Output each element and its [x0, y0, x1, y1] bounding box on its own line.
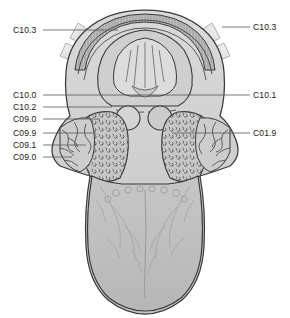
- oropharynx-tongue-illustration: [0, 0, 290, 318]
- label-right-c01-9: C01.9: [253, 129, 276, 138]
- label-left-c09-1: C09.1: [13, 141, 36, 150]
- label-right-c10-3: C10.3: [253, 23, 276, 32]
- anatomical-diagram: [0, 0, 290, 318]
- label-right-c10-1: C10.1: [253, 91, 276, 100]
- label-left-c09-9: C09.9: [13, 129, 36, 138]
- label-left-c09-0-upper: C09.0: [13, 115, 36, 124]
- label-left-c09-0-lower: C09.0: [13, 153, 36, 162]
- label-left-c10-3: C10.3: [13, 26, 36, 35]
- label-left-c10-0: C10.0: [13, 91, 36, 100]
- label-left-c10-2: C10.2: [13, 103, 36, 112]
